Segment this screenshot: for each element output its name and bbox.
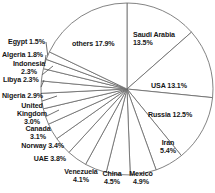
slice-label-uae: UAE 3.8% [20, 155, 66, 163]
slice-label-canada: Canada 3.1% [18, 125, 58, 141]
slice-label-usa: USA 13.1% [151, 82, 187, 90]
slice-label-saudi-arabia: Saudi Arabia 13.5% [133, 31, 175, 47]
slice-label-libya: Libya 2.3% [3, 76, 39, 84]
slice-label-china: China 4.5% [98, 170, 126, 186]
slice-label-indonesia: Indonesia 2.3% [6, 60, 52, 76]
slice-label-mexico: Mexico 4.9% [126, 170, 156, 186]
slice-label-venezuela: Venezuela 4.1% [62, 168, 100, 184]
slice-label-egypt: Egypt 1.5% [8, 38, 45, 46]
slice-label-russia: Russia 12.5% [148, 111, 192, 119]
slice-label-nigeria: Nigeria 2.9% [2, 92, 43, 100]
slice-label-united-kingdom: United Kingdom 3.0% [10, 102, 54, 127]
slice-label-iran: Iran 5.4% [155, 139, 181, 155]
slice-label-algeria: Algeria 1.8% [2, 51, 43, 59]
pie-chart: Saudi Arabia 13.5% USA 13.1% Russia 12.5… [0, 0, 215, 193]
leader-line [46, 42, 48, 56]
slice-label-norway: Norway 3.4% [8, 142, 64, 150]
slice-label-others: others 17.9% [72, 40, 115, 48]
pie-slices [41, 3, 213, 175]
